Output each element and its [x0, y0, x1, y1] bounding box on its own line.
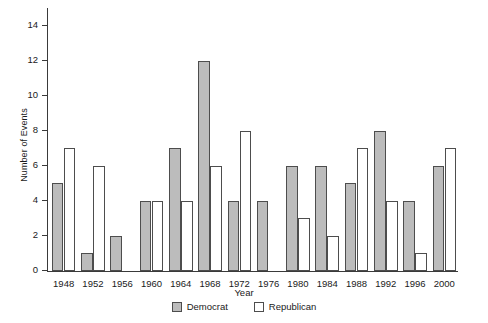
bar-republican-1984 — [327, 236, 339, 271]
bar-republican-1980 — [298, 218, 310, 271]
x-axis-line — [47, 271, 458, 272]
bar-republican-1968 — [210, 166, 222, 271]
bar-republican-2000 — [445, 148, 457, 271]
bar-democrat-1960 — [140, 201, 152, 271]
bar-democrat-1952 — [81, 253, 93, 271]
bar-democrat-1956 — [110, 236, 122, 271]
legend-label: Republican — [269, 301, 317, 312]
bar-republican-1972 — [240, 131, 252, 271]
bar-democrat-2000 — [433, 166, 445, 271]
legend-item-democrat: Democrat — [172, 301, 228, 312]
bar-republican-1996 — [415, 253, 427, 271]
x-axis-title: Year — [0, 287, 488, 298]
bar-democrat-1964 — [169, 148, 181, 271]
legend-swatch-icon — [172, 302, 182, 312]
plot-area: 02468101214 1948195219561960196419681972… — [47, 8, 457, 271]
legend-item-republican: Republican — [254, 301, 317, 312]
bar-republican-1948 — [64, 148, 76, 271]
bar-democrat-1948 — [52, 183, 64, 271]
y-tick-label: 12 — [27, 53, 38, 66]
y-tick-label: 0 — [33, 263, 38, 276]
bar-republican-1964 — [181, 201, 193, 271]
bar-democrat-1984 — [315, 166, 327, 271]
bar-democrat-1968 — [198, 61, 210, 271]
bar-democrat-1980 — [286, 166, 298, 271]
y-tick-label: 6 — [33, 158, 38, 171]
bar-republican-1988 — [357, 148, 369, 271]
y-tick-label: 2 — [33, 228, 38, 241]
chart-legend: DemocratRepublican — [0, 301, 488, 312]
y-tick-label: 8 — [33, 123, 38, 136]
y-tick-label: 14 — [27, 18, 38, 31]
bar-democrat-1972 — [228, 201, 240, 271]
bar-democrat-1976 — [257, 201, 269, 271]
bar-democrat-1996 — [403, 201, 415, 271]
legend-swatch-icon — [254, 302, 264, 312]
bar-republican-1992 — [386, 201, 398, 271]
bar-democrat-1988 — [345, 183, 357, 271]
bar-republican-1960 — [152, 201, 164, 271]
bar-republican-1952 — [93, 166, 105, 271]
bar-chart: Number of Events 02468101214 19481952195… — [0, 0, 488, 323]
y-tick-label: 10 — [27, 88, 38, 101]
bars-layer — [47, 8, 457, 271]
y-tick-label: 4 — [33, 193, 38, 206]
legend-label: Democrat — [187, 301, 228, 312]
bar-democrat-1992 — [374, 131, 386, 271]
